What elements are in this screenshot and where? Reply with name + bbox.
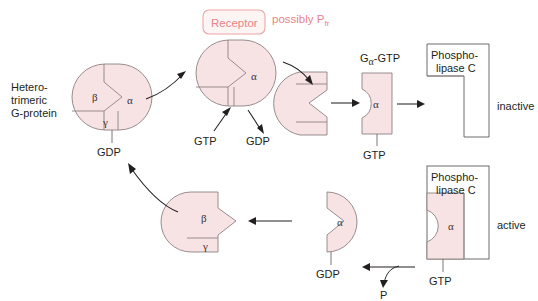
alpha-gdp-subunit-label: α (337, 216, 343, 228)
heterotrimeric-label-line3: G-protein (11, 107, 57, 119)
dissociating-betagamma-body (274, 72, 327, 135)
dissociating-complex-node (274, 72, 327, 135)
gdp-out-label: GDP (246, 135, 270, 147)
alpha-gdp-node (327, 192, 357, 265)
betagamma-gamma-label: γ (202, 240, 208, 252)
arrow-phosphate-release (380, 266, 399, 288)
gtp-in-label: GTP (194, 135, 217, 147)
inactive-state-label: inactive (497, 100, 534, 112)
betagamma-body (161, 192, 236, 252)
plc-active-gtp-label: GTP (429, 275, 452, 287)
galpha-gtp-label: Gα-GTP (360, 52, 400, 67)
plc-active-alpha-label: α (448, 220, 454, 232)
receptor-alpha-label: α (251, 70, 257, 82)
diagram-canvas: Hetero- trimeric G-protein β α γ GDP Rec… (0, 0, 538, 301)
plc-active-label-line2: lipase C (436, 184, 476, 196)
heterotrimeric-label-line2: trimeric (11, 94, 48, 106)
arrow-alphagdp-to-betagamma (248, 217, 292, 225)
heterotrimeric-g-protein-node (72, 64, 152, 143)
arrow-plcactive-to-alphagdp (362, 263, 415, 271)
receptor-g-protein-body (196, 40, 276, 106)
g-protein-body (72, 64, 152, 130)
plc-inactive-label-line1: Phospho- (431, 49, 478, 61)
arrow-alphagtp-to-plc (397, 100, 425, 108)
heterotrimeric-label-line1: Hetero- (11, 81, 48, 93)
heterotrimer-alpha-label: α (127, 94, 133, 106)
plc-active-label-line1: Phospho- (431, 171, 478, 183)
alpha-gtp-nucleotide-label: GTP (363, 149, 386, 161)
heterotrimer-gdp-label: GDP (97, 146, 121, 158)
heterotrimer-gamma-label: γ (102, 116, 108, 128)
alpha-gdp-nucleotide-label: GDP (316, 268, 340, 280)
arrow-gtp-in (214, 107, 231, 131)
heterotrimer-beta-label: β (92, 91, 98, 103)
possibly-pfr-label: possibly Pfr (272, 13, 330, 28)
arrow-dissociating-to-alphagtp (331, 99, 360, 107)
plc-inactive-label-line2: lipase C (436, 62, 476, 74)
arrow-gdp-out (248, 110, 264, 134)
betagamma-node (161, 192, 236, 252)
alpha-gtp-subunit-label: α (373, 98, 379, 110)
signaling-pathway-diagram: Hetero- trimeric G-protein β α γ GDP Rec… (0, 0, 538, 301)
active-state-label: active (497, 219, 526, 231)
betagamma-beta-label: β (201, 212, 207, 224)
receptor-label: Receptor (211, 17, 258, 29)
phosphate-label: P (380, 289, 387, 301)
